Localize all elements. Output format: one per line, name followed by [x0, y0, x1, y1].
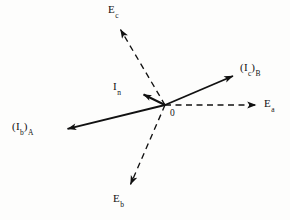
label-e-a-sub: a [271, 105, 275, 114]
vector-line-i-n [144, 95, 166, 106]
vector-line-e-b [131, 105, 166, 185]
label-i-c-b: (Ic)B [240, 62, 260, 76]
vector-line-i-b-a [68, 105, 166, 129]
phasor-diagram-canvas [0, 0, 290, 220]
label-e-b-base: E [113, 192, 120, 204]
label-i-c-b-sub2: B [255, 69, 260, 78]
phasor-diagram-figure: Ec (Ic)B Ea In (Ib)A Eb 0 [0, 0, 290, 220]
vector-line-i-c-b [165, 76, 233, 105]
label-e-b-sub: b [120, 200, 124, 209]
label-e-c-sub: c [115, 11, 119, 20]
label-i-b-a-sub: b [20, 128, 24, 137]
vector-line-e-c [121, 30, 166, 106]
label-i-b-a-sub2: A [28, 128, 34, 137]
label-e-c: Ec [108, 4, 118, 18]
label-e-a: Ea [264, 98, 274, 112]
label-i-n-sub: n [117, 88, 121, 97]
label-e-c-base: E [108, 3, 115, 15]
origin-label: 0 [170, 109, 175, 119]
label-i-c-b-sub: c [248, 69, 252, 78]
label-e-b: Eb [113, 193, 124, 207]
label-i-b-a: (Ib)A [12, 121, 33, 135]
label-i-b-a-close: ) [24, 120, 28, 132]
label-e-a-base: E [264, 97, 271, 109]
label-i-n: In [113, 81, 121, 95]
